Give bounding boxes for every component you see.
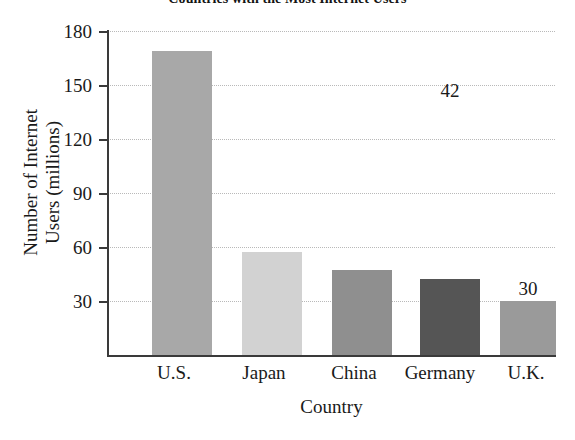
- bar-japan[interactable]: [242, 252, 302, 355]
- bar-uk[interactable]: [500, 301, 556, 355]
- category-label-japan: Japan: [212, 363, 316, 382]
- x-axis-title: Country: [108, 396, 555, 418]
- y-axis-title: Number of Internet Users (millions): [20, 52, 65, 312]
- y-axis-title-line1: Number of Internet: [20, 52, 42, 312]
- category-label-uk: U.K.: [474, 363, 575, 382]
- y-axis-line: [107, 30, 109, 356]
- y-tick-label-180-wrap: 180: [46, 22, 92, 41]
- chart-title: Countries with the Most Internet Users: [0, 0, 575, 7]
- plot-area: 42 30: [108, 31, 555, 355]
- bar-china[interactable]: [332, 270, 392, 355]
- bar-value-label-germany: 42: [420, 81, 480, 100]
- bar-us[interactable]: [152, 51, 212, 355]
- y-tick-label-180: 180: [46, 22, 92, 41]
- y-axis-title-line2: Users (millions): [42, 52, 64, 312]
- bar-value-label-uk: 30: [500, 279, 556, 298]
- gridline-180: [108, 31, 555, 32]
- x-axis-line: [107, 355, 556, 357]
- category-label-us: U.S.: [122, 363, 226, 382]
- bar-germany[interactable]: [420, 279, 480, 355]
